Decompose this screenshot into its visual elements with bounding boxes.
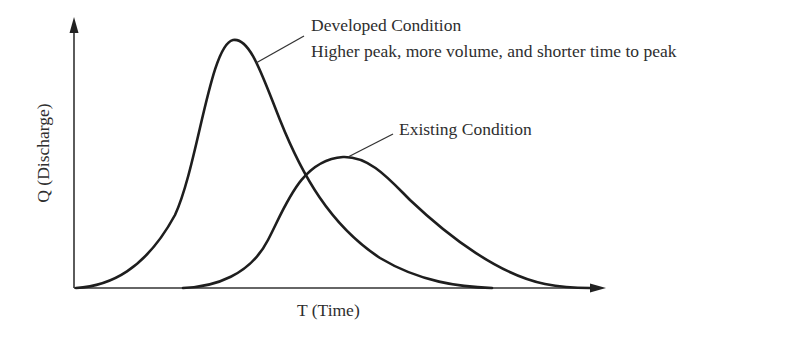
existing-condition-curve — [183, 157, 590, 288]
developed-condition-description: Higher peak, more volume, and shorter ti… — [311, 43, 676, 61]
y-axis-label: Q (Discharge) — [35, 103, 53, 202]
x-axis-label: T (Time) — [297, 302, 360, 320]
existing-condition-label: Existing Condition — [399, 121, 532, 139]
existing-leader-line — [348, 134, 393, 157]
developed-condition-curve — [76, 40, 492, 288]
developed-condition-label: Developed Condition — [311, 17, 461, 35]
developed-leader-line — [256, 36, 304, 63]
y-axis-arrow-icon — [70, 17, 79, 33]
x-axis-arrow-icon — [590, 284, 606, 293]
